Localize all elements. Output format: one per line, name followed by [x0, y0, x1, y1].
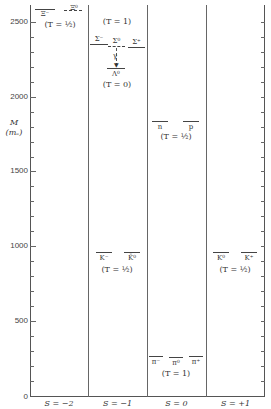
isospin-kaon: (T = ½) — [210, 265, 260, 274]
label-k-plus: K⁺ — [241, 254, 257, 262]
label-k0-bar: K̄⁰ — [124, 254, 140, 262]
label-k-zero: K⁰ — [213, 254, 229, 262]
isospin-sigma: (T = 1) — [92, 17, 142, 26]
level-proton — [183, 121, 199, 122]
isospin-nucleon: (T = ½) — [151, 132, 201, 141]
level-sigma-plus — [128, 47, 145, 48]
column-divider — [88, 5, 89, 397]
level-sigma-zero — [108, 46, 125, 47]
label-sigma-minus: Σ⁻ — [90, 35, 108, 43]
label-lambda: Λ⁰ — [107, 70, 125, 78]
label-sigma-plus: Σ⁺ — [128, 38, 145, 46]
label-xi-minus: Ξ⁻ — [35, 10, 55, 18]
column-divider — [147, 5, 148, 397]
label-pi-zero: π⁰ — [169, 359, 183, 367]
y-tick-label-500: 500 — [0, 317, 28, 325]
level-k-plus — [241, 252, 257, 253]
label-pi-minus: π⁻ — [149, 358, 163, 366]
column-divider — [206, 5, 207, 397]
label-k-minus: K⁻ — [96, 254, 112, 262]
y-axis-title-main: M — [2, 118, 26, 128]
isospin-lambda: (T = 0) — [92, 80, 142, 89]
level-pi-zero — [169, 357, 183, 358]
column-label-s-plus-1: S = +1 — [206, 399, 265, 408]
column-label-s-0: S = 0 — [147, 399, 206, 408]
isospin-xi: (T = ½) — [37, 20, 83, 29]
label-sigma-zero: Σ⁰ — [108, 37, 125, 45]
level-k0-bar — [124, 252, 140, 253]
y-tick-label-1000: 1000 — [0, 242, 28, 250]
isospin-pion: (T = 1) — [151, 369, 201, 378]
column-label-s-minus-1: S = −1 — [88, 399, 147, 408]
level-pi-plus — [189, 356, 203, 357]
label-neutron: n — [152, 123, 168, 131]
y-axis-title-unit: (mₑ) — [2, 128, 26, 138]
y-axis-title: M (mₑ) — [2, 118, 26, 138]
y-tick-label-1500: 1500 — [0, 167, 28, 175]
level-k-zero — [213, 252, 229, 253]
level-k-minus — [96, 252, 112, 253]
level-neutron — [152, 121, 168, 122]
level-lambda — [107, 68, 125, 69]
column-label-s-minus-2: S = −2 — [30, 399, 88, 408]
label-proton: p — [183, 123, 199, 131]
y-tick-label-2500: 2500 — [0, 18, 28, 26]
label-pi-plus: π⁺ — [189, 358, 203, 366]
label-xi-zero: Ξ⁰ — [64, 4, 84, 12]
isospin-antikaon: (T = ½) — [92, 265, 142, 274]
gamma-label: γ — [113, 52, 117, 60]
y-tick-label-0: 0 — [0, 393, 28, 401]
level-sigma-minus — [90, 44, 108, 45]
level-pi-minus — [149, 356, 163, 357]
y-tick-label-2000: 2000 — [0, 93, 28, 101]
